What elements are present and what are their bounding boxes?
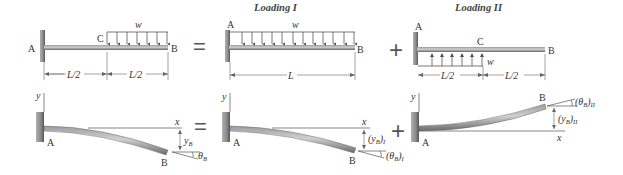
- deflected-beam: [44, 126, 168, 155]
- distributed-load-up: [418, 53, 484, 66]
- fixed-support-wall: [411, 112, 419, 142]
- x-axis-label: x: [174, 116, 180, 127]
- fixed-support-wall: [222, 112, 230, 142]
- label-b: B: [171, 43, 178, 54]
- deflected-loading-2-panel: y x A B (yB)II (θB)II: [410, 91, 596, 148]
- label-b: B: [548, 45, 555, 56]
- label-b: B: [357, 44, 364, 55]
- x-axis-label: x: [556, 132, 562, 143]
- dim-left-label: L/2: [440, 70, 454, 81]
- tangent-line: [358, 151, 384, 158]
- label-a: A: [28, 43, 36, 54]
- dim-right-label: L/2: [504, 70, 518, 81]
- deflection-label: yB: [183, 135, 192, 147]
- deflected-loading-1-panel: y x A B (yB)I (θB)I: [221, 91, 405, 166]
- label-a: A: [47, 137, 55, 148]
- label-a: A: [422, 137, 430, 148]
- slope-label: (θB)I: [386, 150, 405, 162]
- load-label-w: w: [487, 56, 494, 67]
- label-a: A: [227, 19, 235, 30]
- fixed-support-wall: [36, 112, 44, 142]
- load-label-w: w: [135, 19, 142, 30]
- label-a: A: [233, 137, 241, 148]
- beam: [417, 47, 545, 52]
- equals-sign-bottom: =: [194, 114, 207, 139]
- dimension-lines: [418, 54, 545, 80]
- slope-label: θB: [198, 150, 207, 162]
- deflection-label: (yB)I: [368, 133, 386, 145]
- slope-label: (θB)II: [575, 96, 596, 108]
- plus-sign-top: +: [389, 36, 403, 63]
- x-axis-label: x: [361, 116, 367, 127]
- y-axis-label: y: [410, 91, 416, 102]
- dim-right-label: L/2: [128, 69, 142, 80]
- label-b: B: [349, 155, 356, 166]
- tangent-line: [172, 152, 198, 159]
- loading-2-panel: A C B w L/2 L/2: [413, 21, 555, 81]
- loading-2-title: Loading II: [454, 2, 503, 13]
- deflected-beam: [230, 126, 356, 153]
- deflection-label: (yB)II: [558, 113, 578, 125]
- loading-1-panel: A B w L: [225, 19, 364, 81]
- load-label-w: w: [292, 19, 299, 30]
- label-b: B: [539, 92, 546, 103]
- distributed-load-down: [107, 32, 168, 44]
- equals-sign-top: =: [193, 34, 206, 59]
- label-b: B: [161, 157, 168, 168]
- dim-left-label: L/2: [66, 69, 80, 80]
- tangent-line: [547, 99, 575, 106]
- label-c: C: [97, 33, 104, 44]
- label-a: A: [415, 21, 423, 32]
- dim-label: L: [287, 70, 294, 81]
- loading-1-title: Loading I: [253, 2, 298, 13]
- original-loading-panel: A C B w L/2 L/2: [28, 19, 178, 80]
- distributed-load-down: [230, 32, 355, 44]
- plus-sign-bottom: +: [391, 117, 405, 144]
- dimension-lines: [44, 52, 168, 80]
- beam-superposition-diagram: Loading I Loading II A C B w: [0, 0, 623, 175]
- y-axis-label: y: [221, 91, 227, 102]
- deflected-beam: [419, 104, 546, 131]
- y-axis-label: y: [35, 90, 41, 101]
- beam: [229, 45, 355, 50]
- beam: [44, 45, 168, 50]
- deflected-original-panel: y x A B yB θB: [35, 90, 207, 168]
- label-c: C: [477, 36, 484, 47]
